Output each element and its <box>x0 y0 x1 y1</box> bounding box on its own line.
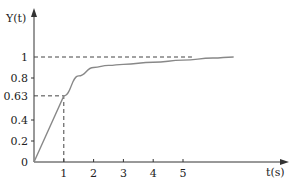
x-axis-arrow-icon <box>280 159 289 165</box>
y-ticks: 00.20.40.630.81 <box>4 51 35 169</box>
x-tick-label: 1 <box>60 167 67 180</box>
x-axis-label: t(s) <box>266 166 285 179</box>
y-tick-label: 0.8 <box>11 72 29 85</box>
x-tick-label: 2 <box>90 167 97 180</box>
y-tick-label: 0 <box>21 156 28 169</box>
y-axis-label: Y(t) <box>5 12 26 25</box>
y-tick-label: 0.63 <box>4 90 29 103</box>
y-axis-arrow-icon <box>31 8 37 17</box>
x-tick-label: 5 <box>180 167 187 180</box>
step-response-chart: 00.20.40.630.81 12345 Y(t) t(s) <box>0 0 296 187</box>
x-tick-label: 4 <box>150 167 157 180</box>
y-tick-label: 0.4 <box>11 114 29 127</box>
x-tick-label: 3 <box>120 167 127 180</box>
y-tick-label: 0.2 <box>11 135 29 148</box>
y-tick-label: 1 <box>21 51 28 64</box>
